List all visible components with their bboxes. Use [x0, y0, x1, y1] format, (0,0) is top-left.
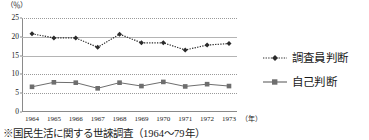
- data-point-1973: [227, 41, 232, 46]
- diamond-marker-icon: [262, 53, 288, 63]
- data-point-1970: [161, 80, 166, 85]
- x-tick-label-1965: 1965: [47, 115, 61, 123]
- legend-item-1: 調査員判断: [262, 46, 367, 70]
- chart-figure: （％） 0510152025 1964196519661967196819691…: [0, 0, 369, 140]
- data-point-1971: [183, 47, 188, 52]
- data-point-1967: [95, 86, 100, 91]
- data-point-1969: [139, 40, 144, 45]
- x-axis-unit-label: （年）: [241, 115, 262, 123]
- data-point-1969: [139, 84, 144, 89]
- data-point-1965: [51, 35, 56, 40]
- series-layer: [22, 18, 237, 112]
- legend-item-2: 自己判断: [262, 70, 367, 94]
- x-tick-label-1970: 1970: [156, 115, 170, 123]
- y-tick-label-5: 5: [15, 89, 19, 97]
- square-marker-icon: [262, 77, 288, 87]
- data-point-1972: [205, 82, 210, 87]
- data-point-1966: [73, 80, 78, 85]
- x-tick-label-1968: 1968: [113, 115, 127, 123]
- y-tick-label-10: 10: [12, 70, 20, 78]
- plot-area: 0510152025 19641965196619671968196919701…: [22, 18, 237, 112]
- series-line: [32, 34, 229, 50]
- series-2: [30, 80, 232, 91]
- data-point-1968: [117, 80, 122, 85]
- x-tick-label-1971: 1971: [178, 115, 192, 123]
- y-axis-unit-label: （％）: [6, 1, 27, 10]
- x-tick-label-1969: 1969: [134, 115, 148, 123]
- data-point-1970: [161, 40, 166, 45]
- data-point-1966: [73, 35, 78, 40]
- data-point-1964: [30, 85, 35, 90]
- legend-label: 自己判断: [292, 76, 337, 89]
- data-point-1964: [30, 31, 35, 36]
- series-1: [30, 31, 232, 52]
- data-point-1965: [52, 80, 57, 85]
- data-point-1971: [183, 84, 188, 89]
- x-tick-label-1972: 1972: [200, 115, 214, 123]
- y-tick-label-0: 0: [15, 108, 19, 116]
- legend-label: 調査員判断: [292, 52, 348, 65]
- data-point-1972: [205, 43, 210, 48]
- legend: 調査員判断自己判断: [262, 46, 367, 94]
- y-tick-label-15: 15: [12, 52, 20, 60]
- y-tick-label-20: 20: [12, 33, 20, 41]
- y-tick-label-25: 25: [12, 14, 20, 22]
- figure-caption: ※国民生活に関する世誺調査（1964～79年）: [3, 128, 205, 140]
- data-point-1973: [227, 84, 232, 89]
- x-tick-label-1966: 1966: [69, 115, 83, 123]
- series-line: [32, 82, 229, 88]
- x-tick-label-1967: 1967: [91, 115, 105, 123]
- x-tick-label-1973: 1973: [222, 115, 236, 123]
- x-tick-label-1964: 1964: [25, 115, 39, 123]
